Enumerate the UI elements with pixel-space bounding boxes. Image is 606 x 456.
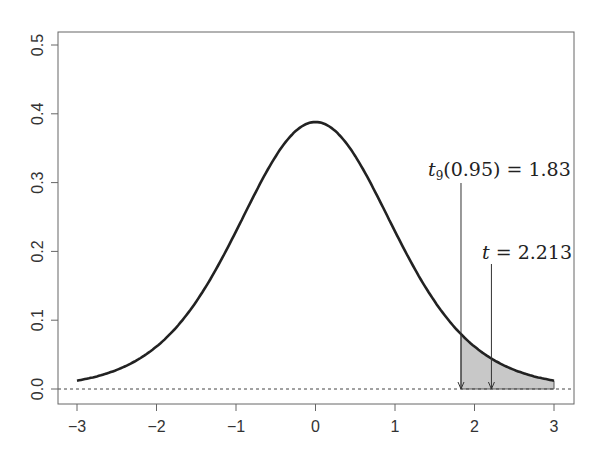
svg-text:0: 0 xyxy=(311,418,320,435)
svg-text:1: 1 xyxy=(391,418,400,435)
test-statistic-label: t = 2.213 xyxy=(482,241,572,263)
svg-text:0.3: 0.3 xyxy=(29,171,46,193)
t-distribution-chart: −3−2−10123 0.00.10.20.30.40.5 t9(0.95) =… xyxy=(0,0,606,456)
svg-text:0.2: 0.2 xyxy=(29,240,46,262)
critical-value-label: t9(0.95) = 1.83 xyxy=(428,158,571,183)
svg-text:0.5: 0.5 xyxy=(29,34,46,56)
shaded-tail-region xyxy=(461,334,554,389)
plot-frame xyxy=(58,32,574,404)
svg-text:−2: −2 xyxy=(147,418,165,435)
svg-text:2: 2 xyxy=(470,418,479,435)
svg-text:−3: −3 xyxy=(68,418,86,435)
svg-text:3: 3 xyxy=(550,418,559,435)
y-axis: 0.00.10.20.30.40.5 xyxy=(29,34,58,400)
svg-text:−1: −1 xyxy=(227,418,245,435)
svg-text:0.0: 0.0 xyxy=(29,378,46,400)
svg-text:0.1: 0.1 xyxy=(29,309,46,331)
svg-text:0.4: 0.4 xyxy=(29,103,46,125)
x-axis: −3−2−10123 xyxy=(68,404,559,435)
